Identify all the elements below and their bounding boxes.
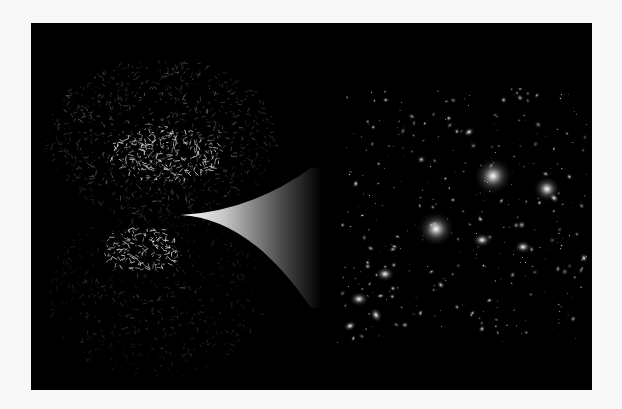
- zoom-funnel: [181, 168, 321, 308]
- figure-panel: [31, 23, 592, 390]
- cosmology-illustration: [31, 23, 592, 390]
- galaxy-field: [336, 86, 589, 343]
